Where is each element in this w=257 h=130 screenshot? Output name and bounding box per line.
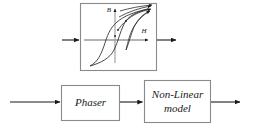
h-axis-label: H xyxy=(140,27,147,35)
curve-point-marker xyxy=(117,29,119,31)
nonlinear-model-label-line1: Non-Linear xyxy=(151,88,204,100)
diagram-canvas: B H Phaser Non-Linear model xyxy=(0,0,257,130)
phaser-block-label: Phaser xyxy=(74,96,107,108)
upper-block-group: B H xyxy=(62,4,176,71)
curve-point-marker xyxy=(114,35,116,37)
nonlinear-model-label-line2: model xyxy=(164,102,191,114)
curve-point-marker xyxy=(125,20,127,22)
b-axis-label: B xyxy=(107,6,112,14)
block-diagram-figure: B H Phaser Non-Linear model xyxy=(0,0,257,130)
lower-chain-group: Phaser Non-Linear model xyxy=(10,81,240,123)
